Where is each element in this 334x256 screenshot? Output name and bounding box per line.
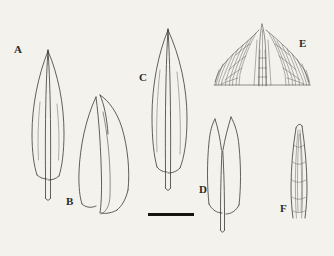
scale-bar — [148, 213, 194, 216]
specimen-a-drawing — [32, 50, 64, 200]
figure-plate: A B C D E F — [0, 0, 334, 256]
specimen-c-drawing — [152, 29, 187, 190]
specimen-label-f: F — [280, 203, 287, 214]
specimen-label-c: C — [139, 72, 147, 83]
specimen-f-drawing — [291, 124, 307, 218]
specimen-d-drawing — [208, 117, 241, 232]
specimen-e-drawing — [214, 24, 310, 86]
plate-drawing — [0, 0, 334, 256]
specimen-label-b: B — [66, 196, 73, 207]
specimen-label-d: D — [199, 184, 207, 195]
specimen-b-drawing — [79, 95, 129, 214]
specimen-label-e: E — [299, 38, 306, 49]
specimen-label-a: A — [14, 44, 22, 55]
